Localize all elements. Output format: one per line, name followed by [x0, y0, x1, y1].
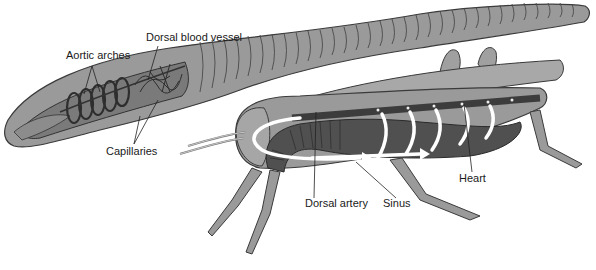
- label-dorsal-artery: Dorsal artery: [305, 198, 368, 209]
- diagram-artwork: [0, 0, 596, 270]
- label-dorsal-blood-vessel: Dorsal blood vessel: [146, 32, 242, 43]
- label-heart: Heart: [459, 173, 486, 184]
- label-aortic-arches: Aortic arches: [66, 50, 130, 61]
- label-capillaries: Capillaries: [106, 146, 157, 157]
- label-sinus: Sinus: [383, 198, 411, 209]
